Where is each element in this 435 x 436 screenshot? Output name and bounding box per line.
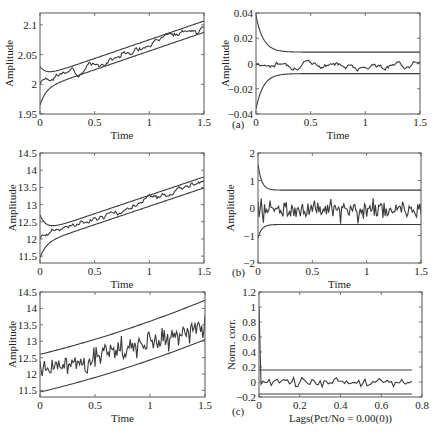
y-axis-label: Norm. corr. bbox=[225, 319, 237, 370]
x-axis-label: Lags(Pct/No = 0.00(0)) bbox=[289, 412, 392, 425]
panel-label-a: (a) bbox=[232, 118, 244, 130]
y-tick-label: 0 bbox=[251, 376, 257, 388]
y-tick-label: 0.8 bbox=[242, 316, 256, 328]
y-tick-label: 0.6 bbox=[242, 331, 256, 343]
y-tick-label: −0.2 bbox=[236, 391, 256, 403]
x-tick-label: 0.4 bbox=[334, 399, 348, 411]
y-tick-label: 1.2 bbox=[242, 286, 256, 298]
panel-label-b: (b) bbox=[232, 266, 245, 278]
panel-label-c: (c) bbox=[232, 405, 244, 417]
x-tick-label: 0 bbox=[256, 399, 262, 411]
plot-area bbox=[259, 307, 412, 394]
y-tick-label: 0.4 bbox=[242, 346, 256, 358]
x-tick-label: 0.8 bbox=[415, 399, 429, 411]
series-autocorrelation bbox=[259, 307, 412, 387]
y-tick-label: 1 bbox=[251, 301, 257, 313]
x-tick-label: 0.6 bbox=[374, 399, 388, 411]
y-tick-label: 0.2 bbox=[242, 361, 256, 373]
x-tick-label: 0.2 bbox=[293, 399, 307, 411]
